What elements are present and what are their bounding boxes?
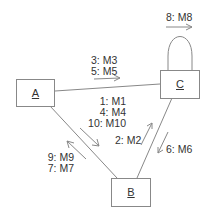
- link-a-c: [55, 84, 160, 91]
- messages-c-to-b: 6: M6: [166, 144, 192, 155]
- link-c-b: [137, 98, 172, 178]
- object-b-label: B: [112, 186, 150, 198]
- message-label: 7: M7: [36, 163, 74, 174]
- message-label: 2: M2: [115, 135, 141, 146]
- arrow-self-c: [166, 24, 192, 30]
- object-c-label: C: [161, 78, 199, 90]
- message-label: 10: M10: [86, 118, 126, 129]
- object-a[interactable]: A: [16, 79, 55, 107]
- messages-b-to-a: 9: M9 7: M7: [36, 152, 74, 174]
- object-b[interactable]: B: [111, 178, 151, 207]
- object-c[interactable]: C: [160, 70, 200, 99]
- messages-b-to-c: 2: M2: [115, 135, 141, 146]
- arrow-b-to-c: [141, 123, 152, 145]
- message-label: 5: M5: [91, 66, 117, 77]
- self-loop-c: [168, 37, 192, 71]
- messages-a-to-b: 1: M1 4: M4 10: M10: [86, 96, 126, 129]
- message-label: 6: M6: [166, 144, 192, 155]
- message-label: 8: M8: [166, 12, 192, 23]
- message-self-c: 8: M8: [166, 12, 192, 23]
- arrow-a-to-b: [80, 128, 99, 146]
- object-a-label: A: [17, 87, 54, 99]
- messages-a-to-c: 3: M3 5: M5: [91, 55, 117, 77]
